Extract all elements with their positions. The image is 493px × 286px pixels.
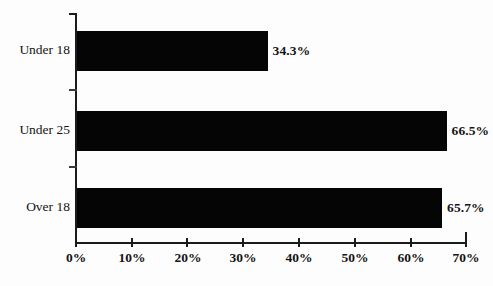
x-axis-line [75, 242, 467, 244]
x-axis-tick-60 [410, 238, 412, 247]
category-label-under-25: Under 25 [0, 122, 76, 138]
bar-chart: Under 18 Under 25 Over 18 34.3% 66.5% 65… [0, 0, 493, 286]
category-label-over-18: Over 18 [0, 199, 76, 215]
bar-value-under-25: 66.5% [452, 123, 490, 139]
x-tick-label-20: 20% [158, 250, 218, 266]
x-tick-label-30: 30% [213, 250, 273, 266]
category-label-under-18: Under 18 [0, 42, 76, 58]
x-tick-label-50: 50% [325, 250, 385, 266]
x-tick-label-70: 70% [436, 250, 493, 266]
y-axis-tick [69, 166, 77, 168]
bar-value-over-18: 65.7% [447, 200, 485, 216]
y-axis-tick [69, 89, 77, 91]
bar-under-25 [77, 111, 447, 151]
bar-value-under-18: 34.3% [273, 43, 311, 59]
x-axis-tick-20 [186, 238, 188, 247]
x-axis-tick-50 [354, 238, 356, 247]
x-tick-label-0: 0% [46, 250, 106, 266]
x-tick-label-40: 40% [269, 250, 329, 266]
x-tick-label-60: 60% [381, 250, 441, 266]
x-axis-tick-10 [131, 238, 133, 247]
x-tick-label-10: 10% [102, 250, 162, 266]
x-axis-tick-40 [298, 238, 300, 247]
x-axis-tick-70 [465, 238, 467, 247]
x-axis-tick-0 [75, 238, 77, 247]
bar-under-18 [77, 31, 268, 71]
y-axis-top-cap [69, 13, 77, 15]
x-axis-tick-30 [242, 238, 244, 247]
bar-over-18 [77, 188, 442, 228]
